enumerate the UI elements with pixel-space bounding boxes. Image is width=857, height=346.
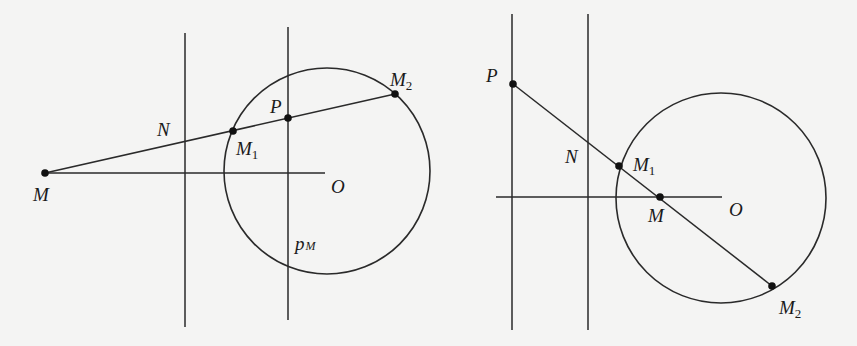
left-point-m2 [391,90,399,98]
right-panel: P N M1 M O M2 [485,14,826,330]
figure: M N M1 P M2 O pM P N [0,0,857,346]
left-point-m [41,169,49,177]
left-point-m1 [229,127,237,135]
right-label-m: M [647,205,665,226]
left-label-p: P [269,96,282,117]
left-secant-line [45,94,395,173]
left-label-m1: M1 [235,138,258,162]
left-label-pm: pM [293,233,317,254]
left-label-m: M [32,184,50,205]
right-label-m1: M1 [632,154,655,178]
right-label-m2: M2 [778,297,801,321]
left-label-m2: M2 [389,69,412,93]
left-circle [224,68,430,274]
left-label-n: N [156,119,171,140]
right-secant-line [513,84,772,286]
right-point-m [656,193,664,201]
right-label-n: N [564,146,579,167]
left-label-o: O [331,176,345,197]
left-point-p [284,114,292,122]
right-point-m1 [615,162,623,170]
right-label-p: P [485,65,498,86]
right-point-p [509,80,517,88]
right-point-m2 [768,282,776,290]
left-panel: M N M1 P M2 O pM [32,27,430,327]
right-label-o: O [729,199,743,220]
right-circle [616,93,826,303]
geometry-diagram: M N M1 P M2 O pM P N [0,0,857,346]
